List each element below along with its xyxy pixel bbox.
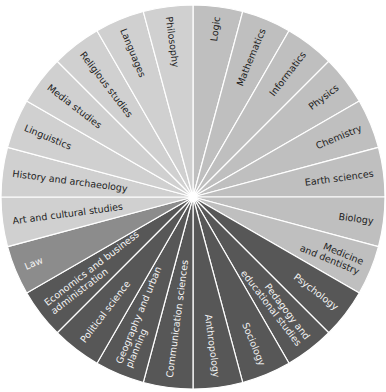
disciplines-wheel: LogicMathematicsInformaticsPhysicsChemis… — [0, 0, 386, 392]
center-hub — [189, 193, 197, 201]
